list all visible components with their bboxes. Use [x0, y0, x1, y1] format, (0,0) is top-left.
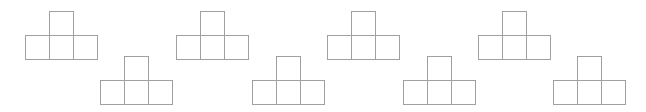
bottom-right-square [149, 81, 173, 105]
bottom-right-square [301, 81, 325, 105]
bottom-middle-square [578, 81, 602, 105]
top-square [578, 57, 602, 81]
bottom-left-square [479, 36, 503, 60]
top-square [125, 57, 149, 81]
t-shape-8 [554, 57, 626, 105]
t-shape-3 [177, 12, 249, 60]
bottom-left-square [101, 81, 125, 105]
bottom-left-square [404, 81, 428, 105]
t-shape-5 [328, 12, 400, 60]
top-square [201, 12, 225, 36]
bottom-middle-square [503, 36, 527, 60]
top-square [352, 12, 376, 36]
t-shape-1 [26, 12, 98, 60]
bottom-right-square [225, 36, 249, 60]
bottom-right-square [602, 81, 626, 105]
bottom-left-square [26, 36, 50, 60]
bottom-middle-square [428, 81, 452, 105]
top-square [428, 57, 452, 81]
bottom-left-square [554, 81, 578, 105]
t-shape-4 [253, 57, 325, 105]
t-shape-7 [479, 12, 551, 60]
bottom-middle-square [201, 36, 225, 60]
bottom-left-square [328, 36, 352, 60]
top-square [503, 12, 527, 36]
bottom-left-square [253, 81, 277, 105]
top-square [277, 57, 301, 81]
top-square [50, 12, 74, 36]
bottom-right-square [74, 36, 98, 60]
t-shape-6 [404, 57, 476, 105]
bottom-right-square [527, 36, 551, 60]
bottom-middle-square [125, 81, 149, 105]
bottom-left-square [177, 36, 201, 60]
diagram-canvas [0, 0, 646, 112]
bottom-middle-square [352, 36, 376, 60]
bottom-middle-square [50, 36, 74, 60]
bottom-right-square [376, 36, 400, 60]
t-shape-2 [101, 57, 173, 105]
bottom-middle-square [277, 81, 301, 105]
bottom-right-square [452, 81, 476, 105]
